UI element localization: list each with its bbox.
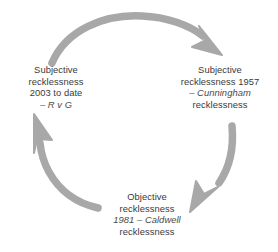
node-line: 2003 to date [4, 87, 108, 99]
arrow-left [34, 114, 98, 208]
node-line-citation: – Cunningham [166, 87, 274, 99]
node-line: recklessness [93, 203, 201, 215]
node-line-citation: – R v G [4, 99, 108, 111]
node-line: Subjective [4, 64, 108, 76]
node-line: Subjective [166, 64, 274, 76]
arrow-top [52, 16, 222, 63]
recklessness-cycle-diagram: Subjective recklessness 1957 – Cunningha… [0, 0, 278, 252]
node-label-rvg: Subjective recklessness 2003 to date – R… [4, 64, 108, 110]
node-label-cunningham: Subjective recklessness 1957 – Cunningha… [166, 64, 274, 110]
node-line: recklessness 1957 [166, 76, 274, 88]
node-line-citation: 1981 – Caldwell [93, 214, 201, 226]
node-line: recklessness [166, 99, 274, 111]
node-line: recklessness [93, 226, 201, 238]
node-line: recklessness [4, 76, 108, 88]
node-label-caldwell: Objective recklessness 1981 – Caldwell r… [93, 191, 201, 237]
node-line: Objective [93, 191, 201, 203]
